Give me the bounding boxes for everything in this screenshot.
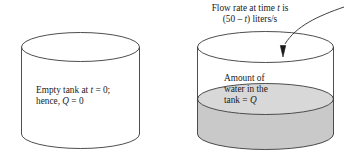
water-amount-label: Amount of water in the tank = Q <box>224 73 268 107</box>
tank-diagram: Flow rate at time t is (50 – t) liters/s… <box>0 0 349 155</box>
variable-q: Q <box>250 95 257 105</box>
flow-rate-line-1: Flow rate at time t is <box>175 3 325 14</box>
water-amount-line-1: Amount of <box>224 73 268 84</box>
left-tank-top-rim <box>22 33 140 62</box>
empty-tank-line-2: hence, Q = 0 <box>36 96 110 107</box>
flow-rate-label: Flow rate at time t is (50 – t) liters/s <box>175 3 325 25</box>
water-amount-line-3: tank = Q <box>224 95 268 106</box>
empty-tank-line-1: Empty tank at t = 0; <box>36 85 110 96</box>
empty-tank-label: Empty tank at t = 0; hence, Q = 0 <box>36 85 110 107</box>
water-amount-line-2: water in the <box>224 84 268 95</box>
flow-rate-line-2: (50 – t) liters/s <box>175 14 325 25</box>
